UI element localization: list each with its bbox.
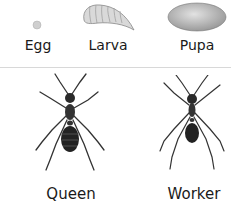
worker-label: Worker <box>164 185 224 203</box>
larva-label: Larva <box>86 37 130 53</box>
egg-illustration <box>32 15 42 34</box>
pupa-label: Pupa <box>174 37 220 53</box>
egg-label: Egg <box>22 37 54 53</box>
queen-label: Queen <box>46 185 96 203</box>
worker-ant-illustration <box>150 75 231 179</box>
queen-ant-illustration <box>28 72 112 180</box>
larva-illustration <box>80 2 136 36</box>
pupa-illustration <box>166 1 228 37</box>
section-divider <box>0 67 231 68</box>
